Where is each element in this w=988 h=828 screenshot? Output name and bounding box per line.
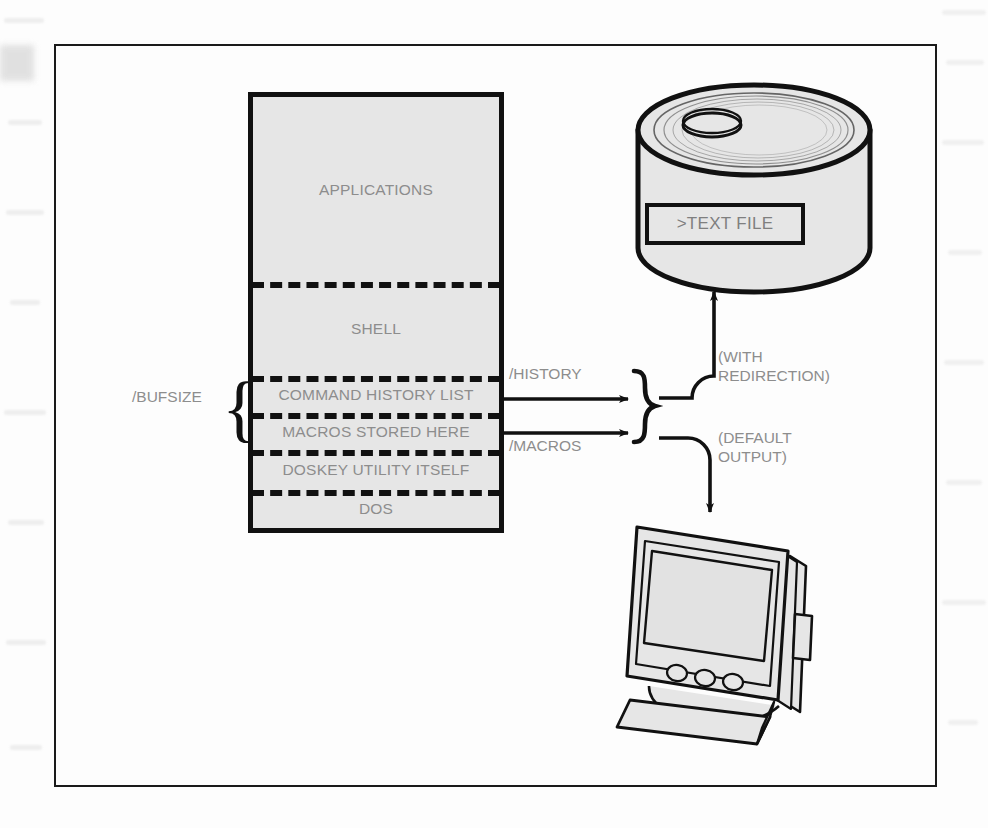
scan-page: >TEXT FILE	[0, 0, 988, 828]
brace-right	[634, 371, 655, 442]
mem-row-dos: DOS	[253, 490, 499, 528]
route-to-disk	[659, 292, 714, 398]
mem-label-applications: APPLICATIONS	[319, 181, 433, 199]
mem-label-shell: SHELL	[351, 320, 401, 338]
default-output-line1: (DEFAULT	[718, 428, 792, 447]
mem-label-command-history-list: COMMAND HISTORY LIST	[278, 386, 473, 404]
mem-row-macros-stored-here: MACROS STORED HERE	[253, 413, 499, 450]
mem-label-dos: DOS	[359, 500, 393, 518]
mem-row-applications: APPLICATIONS	[253, 97, 499, 282]
mem-row-command-history-list: COMMAND HISTORY LIST	[253, 376, 499, 413]
history-annotation: /HISTORY	[509, 365, 582, 383]
with-redirection-line1: (WITH	[718, 347, 830, 366]
with-redirection-annotation: (WITH REDIRECTION)	[718, 347, 830, 385]
mem-row-doskey-utility-itself: DOSKEY UTILITY ITSELF	[253, 450, 499, 490]
memory-map-block: APPLICATIONS SHELL COMMAND HISTORY LIST …	[248, 92, 504, 533]
mem-row-shell: SHELL	[253, 282, 499, 376]
bufsize-annotation: /BUFSIZE	[132, 388, 202, 406]
text-file-label: >TEXT FILE	[677, 214, 774, 234]
route-to-monitor	[659, 438, 710, 512]
with-redirection-line2: REDIRECTION)	[718, 366, 830, 385]
mem-label-doskey-utility-itself: DOSKEY UTILITY ITSELF	[282, 461, 469, 479]
text-file-label-box: >TEXT FILE	[645, 203, 805, 245]
macros-annotation: /MACROS	[509, 437, 581, 455]
default-output-annotation: (DEFAULT OUTPUT)	[718, 428, 792, 466]
mem-label-macros-stored-here: MACROS STORED HERE	[282, 423, 470, 441]
brace-left-icon: {	[222, 368, 248, 448]
default-output-line2: OUTPUT)	[718, 447, 792, 466]
